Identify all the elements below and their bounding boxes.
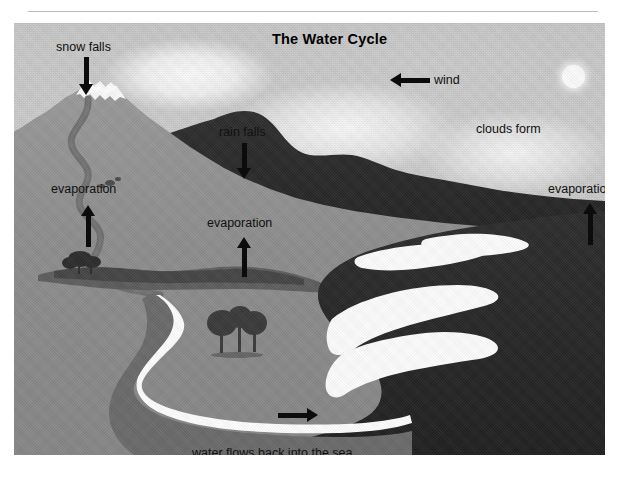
wind-arrow-icon bbox=[390, 73, 430, 87]
page-root: The Water Cycle snow falls rain falls wi… bbox=[0, 0, 627, 479]
top-divider-rule bbox=[28, 11, 598, 12]
label-evaporation-mid: evaporation bbox=[207, 217, 272, 230]
evaporation-left-arrow-icon bbox=[80, 205, 96, 247]
label-rain-falls: rain falls bbox=[219, 126, 266, 139]
water-flow-arrow-icon bbox=[278, 408, 318, 422]
label-evaporation-right: evaporation bbox=[548, 183, 605, 196]
label-evaporation-left: evaporation bbox=[51, 183, 116, 196]
evaporation-right-arrow-icon bbox=[582, 203, 598, 245]
label-wind: wind bbox=[434, 74, 460, 87]
label-water-flows: water flows back into the sea bbox=[192, 447, 353, 455]
snow-falls-arrow-icon bbox=[78, 57, 94, 95]
evaporation-mid-arrow-icon bbox=[236, 237, 252, 277]
landscape-illustration bbox=[14, 23, 605, 455]
label-snow-falls: snow falls bbox=[56, 41, 111, 54]
figure-title: The Water Cycle bbox=[272, 31, 387, 47]
label-clouds-form: clouds form bbox=[476, 123, 541, 136]
water-cycle-figure: The Water Cycle snow falls rain falls wi… bbox=[14, 23, 605, 455]
rain-falls-arrow-icon bbox=[236, 143, 252, 179]
